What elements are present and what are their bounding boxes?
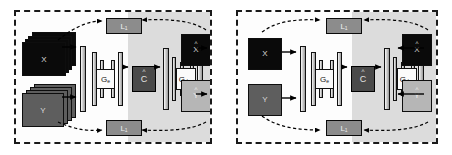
- code-label: C: [360, 74, 367, 84]
- loss-box-top-left: L1: [106, 18, 142, 34]
- input-stack-y-left: Y: [22, 84, 78, 132]
- input-label-x-left: X: [22, 42, 66, 76]
- output-label-y-hat: Y: [193, 92, 198, 100]
- input-label-x-right: X: [262, 50, 267, 58]
- loss-box-top-right: L1: [326, 18, 362, 34]
- encoder-layer-bar: [80, 46, 86, 112]
- input-tile-x-right: X: [248, 38, 282, 70]
- panel-right: X Y Ge C Gdec X Y: [236, 10, 438, 144]
- loss-subscript: 1: [125, 25, 128, 31]
- input-tile-y-right: Y: [248, 84, 282, 116]
- loss-box-bottom-right: L1: [326, 120, 362, 136]
- input-label-y-right: Y: [262, 96, 267, 104]
- latent-code-box-right: C: [351, 66, 375, 92]
- panel-left: X Y Ge C Gdec X: [14, 10, 212, 144]
- output-tile-x-hat-right: X: [402, 34, 432, 66]
- decoder-layer-bar: [163, 48, 169, 110]
- input-stack-x-left: X: [22, 32, 78, 76]
- decoder-layer-bar: [384, 48, 390, 110]
- encoder-layer-bar: [118, 52, 123, 106]
- architecture-diagram: X Y Ge C Gdec X: [0, 0, 452, 155]
- encoder-layer-bar: [300, 46, 306, 112]
- output-label-y-hat: Y: [414, 92, 419, 100]
- output-label-x-hat: X: [414, 46, 419, 54]
- output-label-x-hat: X: [193, 46, 198, 54]
- loss-box-bottom-left: L1: [106, 120, 142, 136]
- output-tile-x-hat-left: X: [181, 34, 211, 66]
- loss-subscript: 1: [125, 127, 128, 133]
- encoder-layer-bar: [337, 52, 342, 106]
- input-label-y-left: Y: [22, 93, 64, 127]
- code-label: C: [141, 74, 148, 84]
- encoder-subscript: e: [326, 78, 329, 84]
- encoder-subscript: e: [107, 78, 110, 84]
- output-tile-y-hat-left: Y: [181, 80, 211, 112]
- output-tile-y-hat-right: Y: [402, 80, 432, 112]
- latent-code-box-left: C: [132, 66, 156, 92]
- loss-subscript: 1: [345, 25, 348, 31]
- encoder-box-left: Ge: [96, 69, 115, 89]
- loss-subscript: 1: [345, 127, 348, 133]
- encoder-box-right: Ge: [315, 69, 334, 89]
